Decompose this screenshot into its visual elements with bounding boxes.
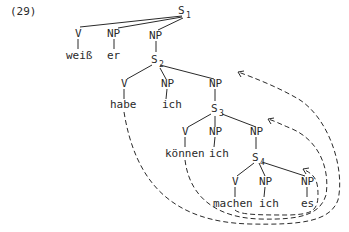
word-ich-2: ich <box>209 147 229 160</box>
node-np-2: NP <box>161 77 175 90</box>
node-v-1: V <box>75 27 82 40</box>
word-ich-1: ich <box>162 98 182 111</box>
node-s4: S <box>252 151 259 164</box>
node-np-3b: NP <box>250 125 264 138</box>
node-np-3: NP <box>209 125 223 138</box>
node-s2: S <box>151 53 158 66</box>
node-np-4b: NP <box>301 175 315 188</box>
node-s3: S <box>211 102 218 115</box>
node-s1-subscript: 1 <box>186 11 191 20</box>
node-v-2: V <box>121 77 128 90</box>
syntax-tree-diagram: (29) S 1 V weiß NP er NP S 2 V habe NP i… <box>0 0 349 232</box>
word-er: er <box>107 49 121 62</box>
node-np-1: NP <box>107 27 121 40</box>
node-s2-subscript: 2 <box>159 60 164 69</box>
word-habe: habe <box>110 98 137 111</box>
word-ich-3: ich <box>259 197 279 210</box>
node-np-1b: NP <box>149 29 163 42</box>
node-v-4: V <box>232 175 239 188</box>
node-s1: S <box>178 4 185 17</box>
word-weiss: weiß <box>66 49 93 62</box>
example-number: (29) <box>10 5 37 18</box>
word-machen: machen <box>213 197 253 210</box>
word-koennen: können <box>165 147 205 160</box>
node-np-4: NP <box>259 175 273 188</box>
node-np-2b: NP <box>209 77 223 90</box>
node-v-3: V <box>182 125 189 138</box>
word-es: es <box>301 197 314 210</box>
node-s3-subscript: 3 <box>219 109 224 118</box>
